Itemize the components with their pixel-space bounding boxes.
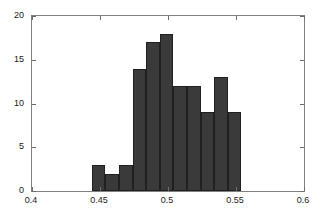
y-axis-tick-labels: 05101520 bbox=[0, 15, 27, 192]
histogram-bar bbox=[105, 174, 119, 192]
y-axis-tick-label: 15 bbox=[14, 55, 24, 64]
histogram-bar bbox=[187, 86, 201, 191]
y-axis-tick-right bbox=[300, 60, 304, 61]
y-axis-tick-label: 10 bbox=[14, 99, 24, 108]
x-axis-tick-label: 0.5 bbox=[161, 195, 174, 205]
histogram-bar bbox=[119, 165, 133, 191]
y-axis-tick bbox=[32, 60, 36, 61]
histogram-figure: 05101520 0.40.450.50.550.6 bbox=[0, 0, 324, 217]
x-axis-tick-label: 0.6 bbox=[297, 195, 310, 205]
x-axis-tick-label: 0.55 bbox=[226, 195, 244, 205]
x-axis-tick-top bbox=[168, 16, 169, 20]
x-axis-tick bbox=[236, 187, 237, 191]
x-axis-tick-label: 0.4 bbox=[25, 195, 38, 205]
y-axis-tick-label: 0 bbox=[19, 186, 24, 195]
histogram-bar bbox=[214, 77, 228, 191]
y-axis-tick bbox=[32, 147, 36, 148]
y-axis-tick-right bbox=[300, 104, 304, 105]
x-axis-tick bbox=[100, 187, 101, 191]
x-axis-tick bbox=[168, 187, 169, 191]
histogram-bar bbox=[228, 112, 242, 191]
y-axis-tick-right bbox=[300, 147, 304, 148]
y-axis-tick bbox=[32, 104, 36, 105]
y-axis-tick-right bbox=[300, 191, 304, 192]
histogram-bar bbox=[133, 69, 147, 192]
plot-area bbox=[31, 15, 305, 192]
histogram-bar bbox=[201, 112, 215, 191]
x-axis-tick-top bbox=[236, 16, 237, 20]
x-axis-tick-top bbox=[304, 16, 305, 20]
histogram-bar bbox=[146, 42, 160, 191]
histogram-bar bbox=[92, 165, 106, 191]
x-axis-tick-top bbox=[32, 16, 33, 20]
histogram-bar bbox=[160, 34, 174, 192]
y-axis-tick bbox=[32, 191, 36, 192]
histogram-bars bbox=[32, 16, 304, 191]
x-axis-tick-label: 0.45 bbox=[90, 195, 108, 205]
y-axis-tick-label: 20 bbox=[14, 11, 24, 20]
x-axis-tick-labels: 0.40.450.50.550.6 bbox=[31, 195, 305, 209]
x-axis-tick bbox=[32, 187, 33, 191]
histogram-bar bbox=[173, 86, 187, 191]
x-axis-tick bbox=[304, 187, 305, 191]
y-axis-tick-label: 5 bbox=[19, 142, 24, 151]
x-axis-tick-top bbox=[100, 16, 101, 20]
